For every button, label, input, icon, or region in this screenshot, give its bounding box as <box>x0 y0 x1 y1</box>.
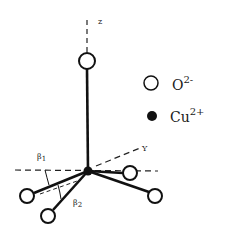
beta1-label: β1 <box>37 152 46 163</box>
legend-copper-label: Cu2+ <box>170 106 204 125</box>
legend: O2- Cu2+ <box>144 74 204 125</box>
bond-apical <box>87 69 88 171</box>
beta1-arc <box>45 170 49 185</box>
oxygen-atom-bottom-left <box>41 209 55 223</box>
bond-left <box>34 171 88 193</box>
z-axis-label: z <box>98 17 102 26</box>
beta2-label: β2 <box>73 198 82 209</box>
y-axis-dashed <box>96 148 140 166</box>
legend-oxygen-label: O2- <box>172 74 193 93</box>
legend-oxygen-symbol <box>144 76 158 90</box>
oxygen-atom-right-near <box>123 166 137 180</box>
oxygen-atom-right-far <box>148 189 162 203</box>
oxygen-atom-apical <box>79 53 95 69</box>
cu-o-coordination-diagram: z Y β1 β2 O2- Cu2+ <box>0 0 232 239</box>
oxygen-atom-left <box>20 189 34 203</box>
copper-atom-center <box>84 167 93 176</box>
legend-copper-symbol <box>147 111 157 121</box>
bond-right-far <box>88 171 149 192</box>
y-axis-label: Y <box>141 144 148 153</box>
